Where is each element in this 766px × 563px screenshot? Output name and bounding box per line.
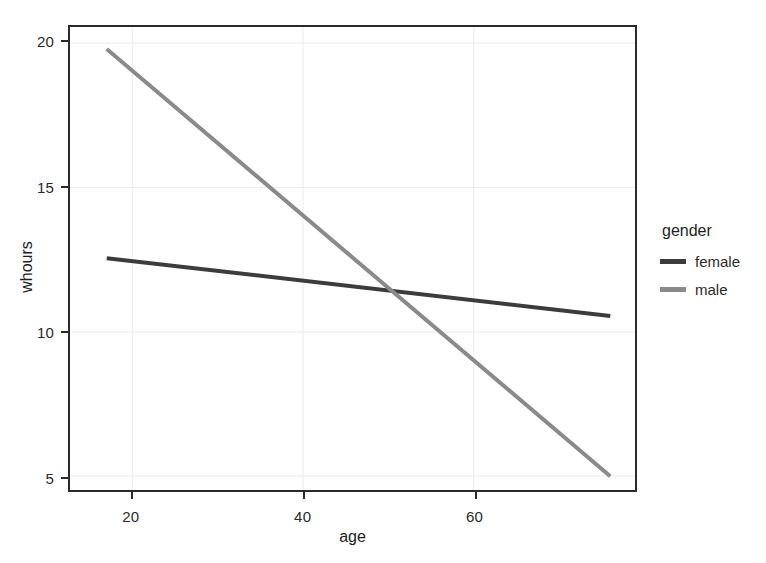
legend-title: gender xyxy=(662,222,766,240)
legend-item-female[interactable]: female xyxy=(660,250,766,272)
y-tick-label: 15 xyxy=(37,178,54,195)
y-tick-label: 5 xyxy=(45,470,54,487)
legend-item-male[interactable]: male xyxy=(660,278,766,300)
legend-item-label: male xyxy=(695,281,728,298)
y-tick-mark xyxy=(61,186,68,188)
series-line-female xyxy=(107,258,611,316)
series-lines xyxy=(107,49,611,476)
legend-items: femalemale xyxy=(660,250,766,300)
legend-key-icon xyxy=(660,287,686,292)
legend-item-label: female xyxy=(695,253,740,270)
legend: gender femalemale xyxy=(660,222,766,306)
y-tick-label: 10 xyxy=(37,324,54,341)
x-axis-title: age xyxy=(68,528,637,546)
x-tick-label: 60 xyxy=(466,508,483,525)
y-axis-title: whours xyxy=(18,222,36,312)
x-tick-mark xyxy=(303,492,305,499)
y-tick-mark xyxy=(61,477,68,479)
plot-panel xyxy=(68,25,637,492)
plot-area-svg xyxy=(70,27,635,490)
y-tick-mark xyxy=(61,40,68,42)
legend-key-icon xyxy=(660,259,686,264)
x-axis-ticks: 204060 xyxy=(0,500,766,528)
series-line-male xyxy=(107,49,611,476)
y-tick-mark xyxy=(61,331,68,333)
x-tick-label: 20 xyxy=(122,508,139,525)
x-tick-label: 40 xyxy=(294,508,311,525)
chart-figure: 5101520 204060 whours age gender femalem… xyxy=(0,0,766,563)
y-tick-label: 20 xyxy=(37,33,54,50)
x-tick-mark xyxy=(131,492,133,499)
x-tick-mark xyxy=(475,492,477,499)
